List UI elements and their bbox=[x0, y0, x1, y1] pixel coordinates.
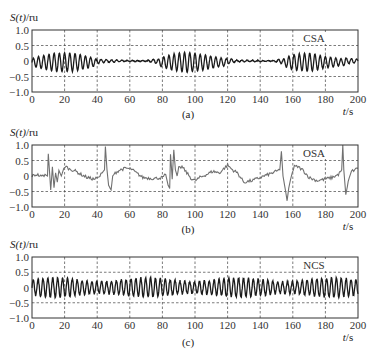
y-tick-label: 0.5 bbox=[15, 40, 29, 52]
x-tick-label: 80 bbox=[157, 319, 169, 331]
x-tick-label: 40 bbox=[92, 93, 104, 105]
panel-ncs: 1.00.50−0.5−1.00204060801001201401601802… bbox=[9, 238, 367, 349]
x-tick-label: 80 bbox=[157, 208, 169, 220]
x-tick-label: 60 bbox=[124, 208, 136, 220]
x-tick-label: 180 bbox=[317, 93, 334, 105]
x-tick-label: 120 bbox=[219, 208, 236, 220]
x-tick-label: 200 bbox=[350, 208, 367, 220]
y-tick-label: −1.0 bbox=[9, 312, 29, 324]
x-tick-label: 140 bbox=[252, 208, 269, 220]
x-tick-label: 0 bbox=[29, 208, 35, 220]
y-tick-label: −0.5 bbox=[9, 71, 29, 83]
x-tick-label: 160 bbox=[285, 208, 302, 220]
y-tick-label: −0.5 bbox=[9, 186, 29, 198]
x-tick-label: 160 bbox=[285, 319, 302, 331]
subplot-label: (a) bbox=[182, 108, 195, 121]
y-tick-label: 1.0 bbox=[15, 24, 29, 36]
y-tick-label: −1.0 bbox=[9, 201, 29, 213]
y-axis-label: S(t)/ru bbox=[10, 11, 39, 24]
y-tick-label: −0.5 bbox=[9, 297, 29, 309]
x-tick-label: 120 bbox=[219, 93, 236, 105]
x-tick-label: 20 bbox=[59, 208, 71, 220]
x-tick-label: 20 bbox=[59, 319, 71, 331]
series-tag: NCS bbox=[303, 259, 324, 271]
y-tick-label: 1.0 bbox=[15, 139, 29, 151]
x-tick-label: 60 bbox=[124, 319, 136, 331]
x-tick-label: 0 bbox=[29, 93, 35, 105]
x-tick-label: 200 bbox=[350, 93, 367, 105]
x-tick-label: 100 bbox=[187, 208, 204, 220]
subplot-label: (b) bbox=[182, 223, 195, 236]
x-tick-label: 140 bbox=[252, 93, 269, 105]
x-tick-label: 60 bbox=[124, 93, 136, 105]
y-tick-label: 1.0 bbox=[15, 251, 29, 263]
panel-osa: 1.00.50−0.5−1.00204060801001201401601802… bbox=[9, 126, 367, 236]
x-tick-label: 20 bbox=[59, 93, 71, 105]
y-axis-label: S(t)/ru bbox=[10, 126, 39, 139]
y-axis-label: S(t)/ru bbox=[10, 238, 39, 251]
y-tick-label: 0 bbox=[24, 170, 30, 182]
y-tick-label: −1.0 bbox=[9, 86, 29, 98]
x-tick-label: 100 bbox=[187, 93, 204, 105]
x-tick-label: 40 bbox=[92, 319, 104, 331]
y-tick-label: 0 bbox=[24, 282, 30, 294]
x-tick-label: 40 bbox=[92, 208, 104, 220]
x-axis-label: t/s bbox=[343, 105, 353, 117]
x-tick-label: 100 bbox=[187, 319, 204, 331]
x-tick-label: 180 bbox=[317, 208, 334, 220]
panel-csa: 1.00.50−0.5−1.00204060801001201401601802… bbox=[9, 11, 367, 121]
subplot-label: (c) bbox=[182, 336, 195, 349]
x-tick-label: 80 bbox=[157, 93, 169, 105]
x-tick-label: 0 bbox=[29, 319, 35, 331]
y-tick-label: 0.5 bbox=[15, 155, 29, 167]
x-axis-label: t/s bbox=[343, 331, 353, 343]
x-tick-label: 120 bbox=[219, 319, 236, 331]
series-tag: OSA bbox=[303, 147, 325, 159]
x-tick-label: 160 bbox=[285, 93, 302, 105]
figure: 1.00.50−0.5−1.00204060801001201401601802… bbox=[0, 0, 379, 362]
x-tick-label: 140 bbox=[252, 319, 269, 331]
x-tick-label: 180 bbox=[317, 319, 334, 331]
y-tick-label: 0 bbox=[24, 55, 30, 67]
x-axis-label: t/s bbox=[343, 220, 353, 232]
y-tick-label: 0.5 bbox=[15, 266, 29, 278]
series-tag: CSA bbox=[303, 32, 324, 44]
x-tick-label: 200 bbox=[350, 319, 367, 331]
